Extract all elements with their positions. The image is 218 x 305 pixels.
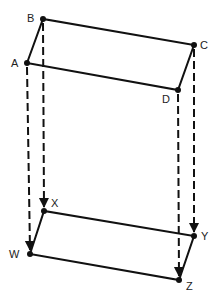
label-w: W bbox=[9, 248, 20, 260]
vertex-b bbox=[40, 16, 46, 22]
shape-wxyz-outline bbox=[30, 211, 194, 280]
parallelogram-abcd bbox=[27, 19, 194, 90]
label-z: Z bbox=[186, 280, 193, 292]
label-a: A bbox=[11, 57, 19, 69]
projection-arrow-a-w bbox=[27, 67, 30, 250]
label-d: D bbox=[162, 93, 170, 105]
projection-arrow-d-z bbox=[178, 94, 179, 276]
shape-abcd-outline bbox=[27, 19, 194, 90]
label-y: Y bbox=[201, 230, 209, 242]
vertex-z bbox=[176, 277, 182, 283]
projection-lines bbox=[27, 23, 194, 276]
vertex-x bbox=[41, 208, 47, 214]
vertex-w bbox=[27, 251, 33, 257]
vertex-c bbox=[191, 42, 197, 48]
vertex-d bbox=[175, 87, 181, 93]
label-x: X bbox=[51, 197, 59, 209]
label-b: B bbox=[27, 12, 34, 24]
parallelogram-wxyz bbox=[30, 211, 194, 280]
vertex-points bbox=[24, 16, 197, 283]
label-c: C bbox=[200, 39, 208, 51]
vertex-a bbox=[24, 60, 30, 66]
projection-arrow-b-x bbox=[43, 23, 44, 207]
vertex-y bbox=[191, 233, 197, 239]
projection-diagram: ABCDXWYZ bbox=[0, 0, 218, 305]
